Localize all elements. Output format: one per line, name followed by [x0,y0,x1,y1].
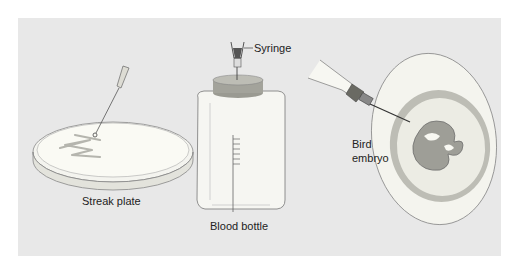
bottle-cap [213,75,263,98]
blood-bottle-illustration [197,42,285,212]
egg-embryo-illustration [308,45,507,233]
streak-plate-label: Streak plate [82,195,141,208]
blood-bottle-label: Blood bottle [210,220,268,233]
streak-plate-illustration [33,66,193,190]
embryo-label: embryo [352,152,389,165]
loop-handle [117,66,129,88]
syringe-label: Syringe [254,42,291,55]
bird-label: Bird [352,138,372,151]
syringe-icon [231,42,244,80]
